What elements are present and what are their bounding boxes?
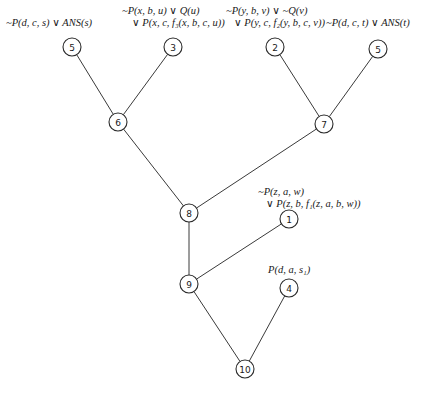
node-10: 10	[236, 360, 254, 378]
node-4: 4	[280, 279, 298, 297]
node-number: 4	[286, 284, 292, 294]
node-number: 2	[272, 43, 278, 53]
node-number: 1	[286, 215, 292, 225]
clause-line: ∨ P(y, c, f₂(y, b, c, v))	[226, 17, 325, 29]
node-5a: 5	[63, 38, 81, 56]
node-number: 10	[239, 365, 251, 375]
node-number: 5	[69, 43, 75, 53]
clause-label-node-2: ~P(y, b, v) ∨ ~Q(v) ∨ P(y, c, f₂(y, b, c…	[226, 5, 325, 29]
clause-line: ∨ P(z, b, f₁(z, a, b, w))	[258, 198, 360, 210]
node-number: 5	[375, 45, 381, 55]
node-6: 6	[109, 113, 127, 131]
clause-line: P(d, a, s₁)	[268, 264, 310, 276]
edge-9-10	[194, 292, 240, 362]
node-3: 3	[164, 38, 182, 56]
clause-line: ~P(d, c, s) ∨ ANS(s)	[6, 17, 92, 29]
clause-line: ~P(y, b, v) ∨ ~Q(v)	[226, 5, 325, 17]
node-number: 6	[115, 118, 121, 128]
node-8: 8	[180, 204, 198, 222]
node-2: 2	[266, 38, 284, 56]
clause-line: ~P(z, a, w)	[258, 186, 360, 198]
node-number: 3	[170, 43, 176, 53]
edge-5b-7	[329, 56, 372, 116]
clause-label-node-5-left: ~P(d, c, s) ∨ ANS(s)	[6, 17, 92, 29]
clause-line: ~P(d, c, t) ∨ ANS(t)	[326, 17, 410, 29]
clause-label-node-3: ~P(x, b, u) ∨ Q(u) ∨ P(x, c, f₃(x, b, c,…	[122, 5, 225, 29]
node-number: 7	[321, 120, 327, 130]
clause-label-node-5-right: ~P(d, c, t) ∨ ANS(t)	[326, 17, 410, 29]
node-7: 7	[315, 115, 333, 133]
node-5b: 5	[369, 40, 387, 58]
edge-6-8	[124, 129, 184, 206]
clause-label-node-4: P(d, a, s₁)	[268, 264, 310, 276]
edge-5a-6	[77, 55, 114, 115]
node-1: 1	[280, 210, 298, 228]
clause-label-node-1: ~P(z, a, w) ∨ P(z, b, f₁(z, a, b, w))	[258, 186, 360, 210]
clause-line: ∨ P(x, c, f₃(x, b, c, u))	[122, 17, 225, 29]
node-number: 9	[186, 280, 192, 290]
node-9: 9	[180, 275, 198, 293]
clause-line: ~P(x, b, u) ∨ Q(u)	[122, 5, 225, 17]
edge-4-10	[249, 296, 284, 361]
edge-2-7	[280, 55, 319, 117]
edge-3-6	[123, 54, 167, 114]
node-number: 8	[186, 209, 192, 219]
